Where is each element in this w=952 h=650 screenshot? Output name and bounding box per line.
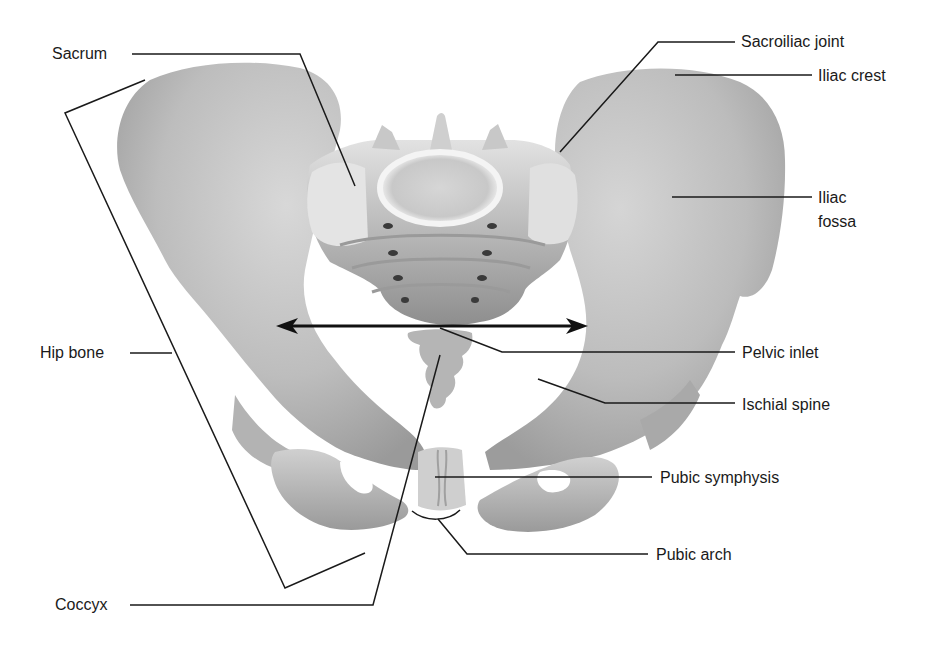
label-iliac-fossa-line1: Iliac (818, 188, 898, 207)
sacrum-left-process (372, 125, 400, 150)
sacrum-right-ala (528, 163, 578, 244)
label-ischial-spine: Ischial spine (742, 395, 830, 414)
sacrum-spinous-process (430, 113, 452, 150)
pubic-symphysis-region (418, 447, 466, 510)
label-pelvic-inlet: Pelvic inlet (742, 343, 818, 362)
coccyx-bone (408, 329, 473, 408)
label-sacrum: Sacrum (52, 44, 107, 63)
sacrum-bone (307, 113, 578, 325)
label-sacroiliac-joint: Sacroiliac joint (741, 32, 844, 51)
label-iliac-fossa: Iliac fossa (818, 188, 898, 231)
sacral-promontory-disc (380, 152, 500, 224)
right-hip-bone (478, 68, 786, 531)
sacrum-left-ala (307, 162, 368, 246)
label-coccyx: Coccyx (55, 595, 107, 614)
label-iliac-fossa-line2: fossa (818, 212, 898, 231)
label-pubic-symphysis: Pubic symphysis (660, 468, 779, 487)
pelvis-diagram (0, 0, 952, 650)
label-iliac-crest: Iliac crest (818, 66, 886, 85)
label-hip-bone: Hip bone (40, 343, 104, 362)
label-pubic-arch: Pubic arch (656, 545, 732, 564)
sacrum-right-process (482, 124, 508, 150)
pubic-arch-curve (412, 510, 460, 519)
